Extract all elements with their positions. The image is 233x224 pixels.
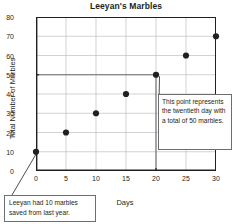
data-point bbox=[213, 33, 219, 39]
x-axis-tick-label: 5 bbox=[56, 175, 76, 182]
y-axis-tick-label: 0 bbox=[0, 168, 14, 175]
data-point bbox=[123, 91, 129, 97]
leader-line-start-note bbox=[12, 153, 37, 196]
x-axis-tick-label: 20 bbox=[146, 175, 166, 182]
x-axis-tick-label: 0 bbox=[26, 175, 46, 182]
data-point bbox=[33, 149, 39, 155]
x-axis-tick-label: 25 bbox=[176, 175, 196, 182]
x-axis-tick-label: 15 bbox=[116, 175, 136, 182]
data-point bbox=[63, 129, 69, 135]
chart-title: Leeyan's Marbles bbox=[36, 1, 216, 11]
data-point bbox=[93, 110, 99, 116]
y-axis-tick-label: 80 bbox=[0, 14, 14, 21]
callout-point-note: This point represents the twentieth day … bbox=[158, 94, 232, 150]
data-point bbox=[153, 72, 159, 78]
data-point bbox=[183, 52, 189, 58]
callout-start-note: Leeyan had 10 marbles saved from last ye… bbox=[4, 195, 96, 222]
y-axis-title: Total Number of Marbles bbox=[8, 39, 17, 159]
x-axis-title: Days bbox=[95, 198, 155, 207]
x-axis-tick-label: 10 bbox=[86, 175, 106, 182]
x-axis-tick-label: 30 bbox=[206, 175, 226, 182]
chart-container: Leeyan's Marbles 80 70 60 50 40 30 20 10… bbox=[0, 0, 233, 224]
